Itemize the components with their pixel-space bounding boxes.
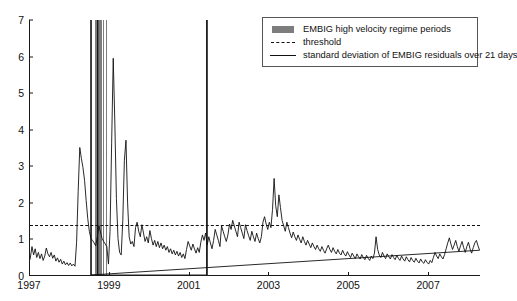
y-tick-mark [29,129,33,130]
y-tick-mark [29,93,33,94]
x-tick-label: 2001 [177,279,200,291]
y-tick-label: 3 [2,160,24,172]
x-tick-label: 1999 [97,279,120,291]
x-tick-mark [268,272,269,276]
legend-label-band: EMBIG high velocity regime periods [303,24,451,35]
y-tick-label: 6 [2,51,24,63]
legend-label-series: standard deviation of EMBIG residuals ov… [303,50,517,61]
legend: EMBIG high velocity regime periods thres… [262,17,478,67]
x-tick-label: 2003 [257,279,280,291]
legend-item-series: standard deviation of EMBIG residuals ov… [268,49,472,61]
y-tick-mark [29,239,33,240]
y-tick-mark [29,166,33,167]
y-tick-label: 5 [2,87,24,99]
legend-solid-line-icon [268,55,298,56]
x-tick-label: 2005 [337,279,360,291]
y-tick-label: 1 [2,233,24,245]
legend-dash-icon [268,42,298,43]
legend-swatch-band-icon [268,26,298,33]
y-tick-label: 7 [2,14,24,26]
x-tick-mark [109,272,110,276]
y-tick-mark [29,20,33,21]
legend-item-threshold: threshold [268,36,472,48]
legend-label-threshold: threshold [303,37,341,48]
x-tick-mark [189,272,190,276]
y-tick-label: 2 [2,197,24,209]
y-tick-mark [29,202,33,203]
x-tick-label: 1997 [17,279,40,291]
x-tick-label: 2007 [416,279,439,291]
y-tick-mark [29,56,33,57]
x-tick-mark [428,272,429,276]
legend-item-band: EMBIG high velocity regime periods [268,23,472,35]
x-tick-mark [348,272,349,276]
y-tick-label: 4 [2,124,24,136]
